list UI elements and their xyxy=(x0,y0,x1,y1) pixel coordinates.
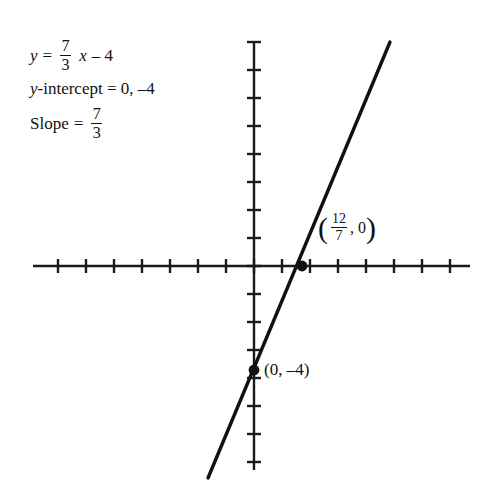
graph-figure: y = 7 3 x – 4 y -intercept = 0, –4 Slope… xyxy=(0,0,494,498)
point-fraction: 12 7 xyxy=(331,212,347,243)
point-label-x-intercept: ( 12 7 , 0 ) xyxy=(318,212,376,243)
point-label-y-intercept: (0, –4) xyxy=(264,361,309,378)
plotted-line xyxy=(208,42,390,478)
point-marker-x-intercept xyxy=(297,261,308,272)
open-paren: ( xyxy=(318,216,328,239)
close-paren: ) xyxy=(366,216,376,239)
fraction-denominator: 7 xyxy=(335,228,344,243)
fraction-numerator: 12 xyxy=(331,212,347,227)
point-label-rest: , 0 xyxy=(350,220,366,236)
coordinate-plane xyxy=(0,0,494,498)
point-marker-y-intercept xyxy=(249,365,260,376)
